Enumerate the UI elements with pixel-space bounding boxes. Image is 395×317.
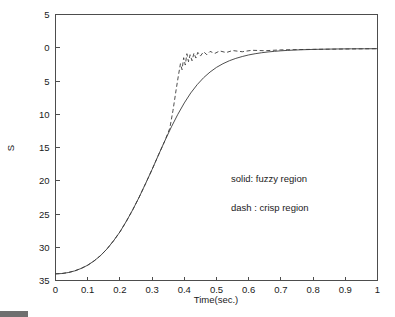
y-tick-label: 25 (39, 209, 50, 220)
y-tick-label: 15 (39, 142, 50, 153)
x-tick-label: 0.1 (81, 284, 94, 295)
x-tick-label: 0.6 (242, 284, 255, 295)
y-tick-label: 20 (39, 175, 50, 186)
y-axis-ticks (56, 15, 60, 281)
x-tick-label: 0.8 (306, 284, 319, 295)
x-tick-label: 0.5 (210, 284, 223, 295)
x-tick-label: 0 (53, 284, 58, 295)
y-tick-label: 30 (39, 242, 50, 253)
x-tick-label: 1 (375, 284, 380, 295)
y-tick-label: 5 (44, 76, 49, 87)
y-axis-tick-labels: 505101520253035 (39, 9, 50, 286)
x-tick-label: 0.2 (113, 284, 126, 295)
x-tick-label: 0.7 (274, 284, 287, 295)
line-chart-svg: 00.10.20.30.40.50.60.70.80.91 5051015202… (0, 0, 395, 317)
page-edge-artifact (0, 311, 28, 317)
legend-annotation: dash : crisp region (231, 202, 309, 213)
x-tick-label: 0.9 (339, 284, 352, 295)
plot-frame (56, 15, 378, 281)
series-line-fuzzy-region (56, 49, 378, 274)
legend-annotation: solid: fuzzy region (231, 173, 307, 184)
series-line-crisp-region (56, 49, 378, 274)
x-axis-ticks (56, 277, 378, 281)
x-axis-title: Time(sec.) (194, 294, 239, 305)
y-axis-title: S (5, 145, 16, 151)
y-tick-label: 0 (44, 42, 49, 53)
y-tick-label: 35 (39, 275, 50, 286)
chart-figure: 00.10.20.30.40.50.60.70.80.91 5051015202… (0, 0, 395, 317)
y-tick-label: 10 (39, 109, 50, 120)
x-axis-tick-labels: 00.10.20.30.40.50.60.70.80.91 (53, 284, 380, 295)
x-tick-label: 0.3 (145, 284, 158, 295)
y-tick-label: 5 (44, 9, 49, 20)
chart-annotations: solid: fuzzy regiondash : crisp region (231, 173, 309, 213)
x-tick-label: 0.4 (178, 284, 191, 295)
